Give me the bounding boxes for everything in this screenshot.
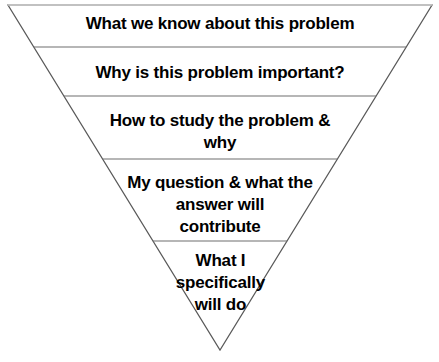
pyramid-outline	[8, 5, 432, 350]
pyramid-shape	[0, 0, 439, 362]
inverted-pyramid-diagram: What we know about this problem Why is t…	[0, 0, 439, 362]
